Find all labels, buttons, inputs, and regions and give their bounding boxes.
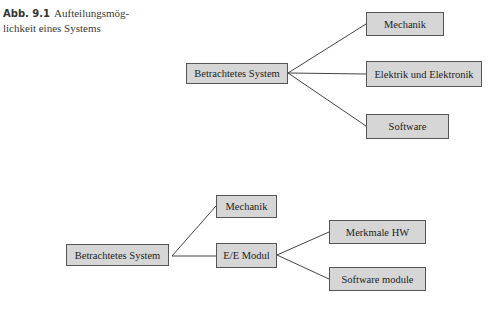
bottom-mechanik-box: Mechanik: [216, 195, 277, 218]
software-module-box: Software module: [329, 267, 426, 291]
top-elektrik-box: Elektrik und Elektronik: [366, 61, 482, 87]
bottom-root-box: Betrachtetes System: [66, 244, 169, 266]
top-root-box: Betrachtetes System: [186, 63, 288, 84]
merkmale-hw-box: Merkmale HW: [329, 220, 426, 244]
top-mechanik-box: Mechanik: [366, 12, 444, 36]
bottom-ee-modul-box: E/E Modul: [216, 243, 277, 268]
top-software-box: Software: [366, 114, 449, 139]
